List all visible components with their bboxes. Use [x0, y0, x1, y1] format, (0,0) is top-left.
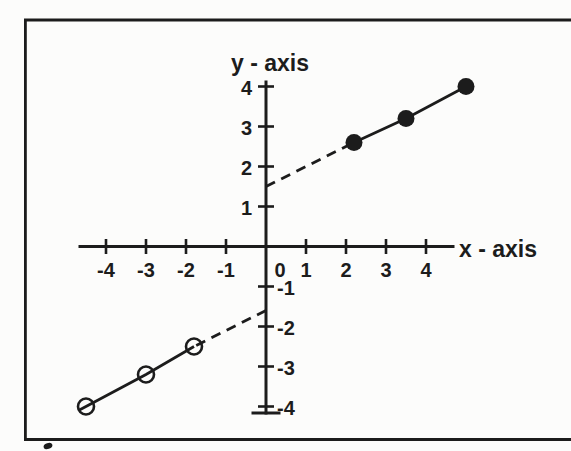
x-tick-label: -2: [177, 259, 195, 281]
x-tick-label: -3: [137, 259, 155, 281]
x-axis-label: x - axis: [459, 236, 537, 262]
y-tick-label: 3: [241, 117, 252, 139]
positive-branch-dashed-line: [266, 143, 354, 187]
y-axis-label: y - axis: [231, 50, 309, 76]
x-tick-label: 1: [300, 259, 311, 281]
scan-artifact-mark: [43, 442, 53, 450]
x-tick-label: 4: [420, 259, 432, 281]
filled-point: [398, 110, 415, 127]
x-tick-label: 2: [340, 259, 351, 281]
y-tick-label: -2: [277, 317, 295, 339]
y-tick-label: 2: [241, 157, 252, 179]
scanned-figure: y - axis x - axis -4-3-2-101234-4-3-2-11…: [0, 0, 571, 451]
filled-point: [346, 134, 363, 151]
negative-branch-line: [79, 347, 194, 411]
y-tick-label: 4: [241, 77, 253, 99]
plot-svg: y - axis x - axis -4-3-2-101234-4-3-2-11…: [0, 0, 571, 451]
figure-border: [25, 20, 571, 440]
y-tick-label: -4: [277, 397, 296, 419]
y-tick-label: -3: [277, 357, 295, 379]
x-tick-label: -1: [217, 259, 235, 281]
filled-point: [458, 78, 475, 95]
y-tick-label: 1: [241, 197, 252, 219]
x-tick-label: -4: [97, 259, 116, 281]
x-tick-label: 3: [380, 259, 391, 281]
negative-branch-dashed-line: [194, 311, 266, 347]
y-tick-label: -1: [277, 277, 295, 299]
